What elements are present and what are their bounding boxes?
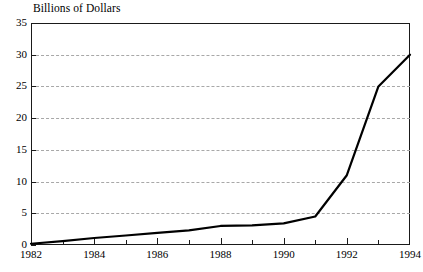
y-axis-tick-label: 25 (16, 80, 27, 91)
plot-area (31, 23, 410, 245)
x-axis-tick-label: 1982 (20, 248, 42, 260)
y-axis-tick-label: 10 (16, 176, 27, 187)
x-axis-tick-label: 1984 (83, 248, 105, 260)
line-chart: Billions of Dollars 05101520253035 19821… (0, 0, 423, 272)
y-axis-tick (31, 245, 36, 246)
y-axis-tick-label: 35 (16, 17, 27, 28)
chart-title: Billions of Dollars (33, 1, 121, 15)
y-axis-tick-label: 15 (16, 144, 27, 155)
x-axis-tick-label: 1992 (336, 248, 358, 260)
y-axis-labels: 05101520253035 (0, 23, 27, 245)
x-axis-labels: 1982198419861988199019921994 (0, 248, 423, 268)
x-axis-tick-label: 1990 (273, 248, 295, 260)
x-axis-tick-label: 1986 (146, 248, 168, 260)
x-axis-tick-label: 1994 (399, 248, 421, 260)
y-axis-tick-label: 30 (16, 49, 27, 60)
y-axis-tick-label: 20 (16, 112, 27, 123)
y-axis-tick-label: 5 (22, 207, 28, 218)
x-axis-tick-label: 1988 (210, 248, 232, 260)
data-series-line (31, 23, 410, 245)
